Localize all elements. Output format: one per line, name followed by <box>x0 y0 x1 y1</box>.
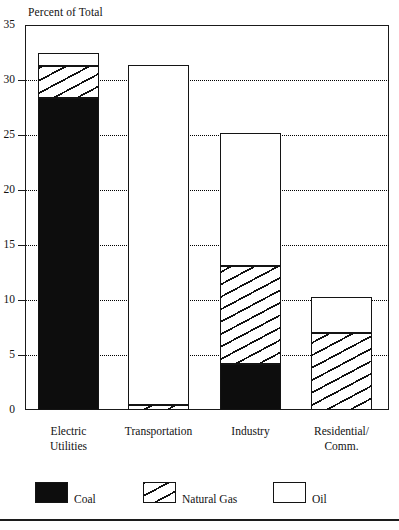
hatch-fill <box>311 333 372 410</box>
stacked-bar-chart-figure: Percent of Total 05101520253035 Electric… <box>0 0 399 530</box>
y-tick-label-25: 25 <box>0 129 15 140</box>
bar-segment-oil <box>38 53 99 66</box>
bar-industry <box>220 133 281 410</box>
y-tick-mark-5 <box>18 355 27 356</box>
y-tick-mark-20 <box>18 190 27 191</box>
bar-segment-gas <box>128 405 189 411</box>
y-tick-mark-30 <box>18 80 27 81</box>
legend-item-oil[interactable]: Oil <box>273 478 327 506</box>
legend-swatch-gas <box>143 482 176 503</box>
footer-rule <box>0 519 399 521</box>
bar-segment-oil <box>311 297 372 333</box>
y-tick-label-0: 0 <box>0 404 15 415</box>
bar-segment-gas <box>220 266 281 364</box>
bar-transportation <box>128 65 189 410</box>
legend-swatch-oil <box>273 482 306 503</box>
x-axis-label-3: Residential/Comm. <box>287 424 397 453</box>
legend-label: Natural Gas <box>182 493 237 506</box>
bar-electric-utilities <box>38 53 99 411</box>
y-tick-label-30: 30 <box>0 74 15 85</box>
bar-residential-comm <box>311 297 372 410</box>
legend-item-coal[interactable]: Coal <box>35 478 96 506</box>
hatch-fill <box>143 482 176 503</box>
y-tick-label-10: 10 <box>0 294 15 305</box>
y-tick-mark-25 <box>18 135 27 136</box>
y-tick-label-15: 15 <box>0 239 15 250</box>
legend-swatch-coal <box>35 482 68 503</box>
y-axis-units-caption: Percent of Total <box>26 6 106 19</box>
bar-segment-oil <box>220 133 281 266</box>
bar-segment-coal <box>38 98 99 410</box>
y-tick-label-35: 35 <box>0 19 15 30</box>
x-axis-label-line: Utilities <box>14 439 124 454</box>
hatch-fill <box>38 66 99 98</box>
legend-label: Oil <box>312 493 327 506</box>
chart-legend: CoalNatural GasOil <box>25 478 389 508</box>
x-axis-label-line: Residential/ <box>287 424 397 439</box>
bar-segment-oil <box>128 65 189 405</box>
y-tick-mark-10 <box>18 300 27 301</box>
legend-label: Coal <box>74 493 96 506</box>
legend-item-natural-gas[interactable]: Natural Gas <box>143 478 237 506</box>
y-tick-label-20: 20 <box>0 184 15 195</box>
bar-segment-gas <box>38 66 99 98</box>
hatch-fill <box>128 405 189 411</box>
hatch-fill <box>220 266 281 364</box>
bar-segment-coal <box>220 364 281 410</box>
y-tick-label-5: 5 <box>0 349 15 360</box>
x-axis-label-line: Comm. <box>287 439 397 454</box>
bar-segment-gas <box>311 333 372 410</box>
y-tick-mark-15 <box>18 245 27 246</box>
